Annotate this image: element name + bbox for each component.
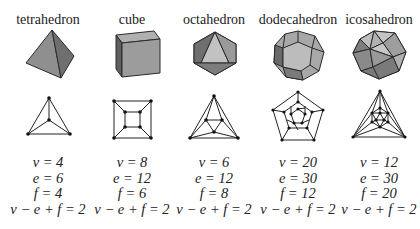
euler-formula: v − e + f = 2 xyxy=(90,202,174,218)
edge-count: e = 12 xyxy=(90,171,174,187)
tetrahedron-graph xyxy=(6,88,90,148)
face-count: f = 6 xyxy=(90,186,174,202)
edge-count: e = 30 xyxy=(256,171,340,187)
edge-count: e = 6 xyxy=(6,171,90,187)
octahedron-stats: v = 6 e = 12 f = 8 v − e + f = 2 xyxy=(172,155,256,217)
octahedron-graph xyxy=(172,88,256,148)
column-icosahedron: icosahedron xyxy=(337,0,420,229)
cube-graph xyxy=(90,88,174,148)
dodecahedron-stats: v = 20 e = 30 f = 12 v − e + f = 2 xyxy=(256,155,340,217)
cube-solid xyxy=(90,27,174,82)
euler-formula: v − e + f = 2 xyxy=(6,202,90,218)
vertex-count: v = 20 xyxy=(256,155,340,171)
face-count: f = 4 xyxy=(6,186,90,202)
edge-count: e = 30 xyxy=(337,171,420,187)
solid-name: dodecahedron xyxy=(256,12,340,28)
dodecahedron-graph xyxy=(256,88,340,148)
solid-name: icosahedron xyxy=(337,12,420,28)
icosahedron-stats: v = 12 e = 30 f = 20 v − e + f = 2 xyxy=(337,155,420,217)
vertex-count: v = 12 xyxy=(337,155,420,171)
icosahedron-graph xyxy=(337,88,420,148)
dodecahedron-solid xyxy=(256,27,340,82)
octahedron-solid xyxy=(172,27,256,82)
column-octahedron: octahedron v = 6 e = 12 f = xyxy=(172,0,256,229)
column-cube: cube v = 8 e = 12 f = 6 v − e + f = 2 xyxy=(90,0,174,229)
solid-name: tetrahedron xyxy=(6,12,90,28)
cube-stats: v = 8 e = 12 f = 6 v − e + f = 2 xyxy=(90,155,174,217)
face-count: f = 20 xyxy=(337,186,420,202)
icosahedron-solid xyxy=(337,27,420,82)
vertex-count: v = 8 xyxy=(90,155,174,171)
euler-formula: v − e + f = 2 xyxy=(256,202,340,218)
solid-name: cube xyxy=(90,12,174,28)
column-tetrahedron: tetrahedron v = 4 e = 6 f = 4 v − e + f … xyxy=(6,0,90,229)
solid-name: octahedron xyxy=(172,12,256,28)
euler-formula: v − e + f = 2 xyxy=(172,202,256,218)
column-dodecahedron: dodecahedron xyxy=(256,0,340,229)
tetrahedron-stats: v = 4 e = 6 f = 4 v − e + f = 2 xyxy=(6,155,90,217)
face-count: f = 8 xyxy=(172,186,256,202)
euler-formula: v − e + f = 2 xyxy=(337,202,420,218)
vertex-count: v = 6 xyxy=(172,155,256,171)
edge-count: e = 12 xyxy=(172,171,256,187)
vertex-count: v = 4 xyxy=(6,155,90,171)
tetrahedron-solid xyxy=(6,27,90,82)
face-count: f = 12 xyxy=(256,186,340,202)
